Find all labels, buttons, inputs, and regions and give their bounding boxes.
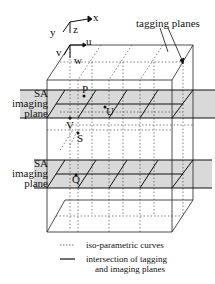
axis-y-label: y [50,27,56,38]
box-outline [47,45,193,232]
point-p-label: P [82,84,88,95]
plane-text: plane [12,108,48,118]
legend-intersection-line2: and imaging planes [86,264,167,274]
legend-intersection-line1: intersection of tagging [86,254,167,264]
param-u-label: u [86,36,92,47]
legend-intersection: intersection of tagging and imaging plan… [86,254,167,274]
sa-plane-label-1: SA imaging plane [12,88,48,118]
tagging-planes-label: tagging planes [136,18,200,29]
point-v-label: V [66,120,74,131]
point-s-label: S [77,133,83,144]
axis-z-label: z [73,24,78,35]
param-w-label: w [74,55,82,66]
axis-x-label: x [93,12,99,23]
point-u-label: U [106,106,114,117]
plane-text: plane [12,178,48,188]
param-v-label: v [56,47,62,58]
tagging-arrows [160,28,184,64]
point-q-label: Q [72,174,80,185]
legend-iso-parametric: iso-parametric curves [86,240,164,250]
sa-plane-label-2: SA imaging plane [12,158,48,188]
iso-parametric-curves [47,45,193,232]
